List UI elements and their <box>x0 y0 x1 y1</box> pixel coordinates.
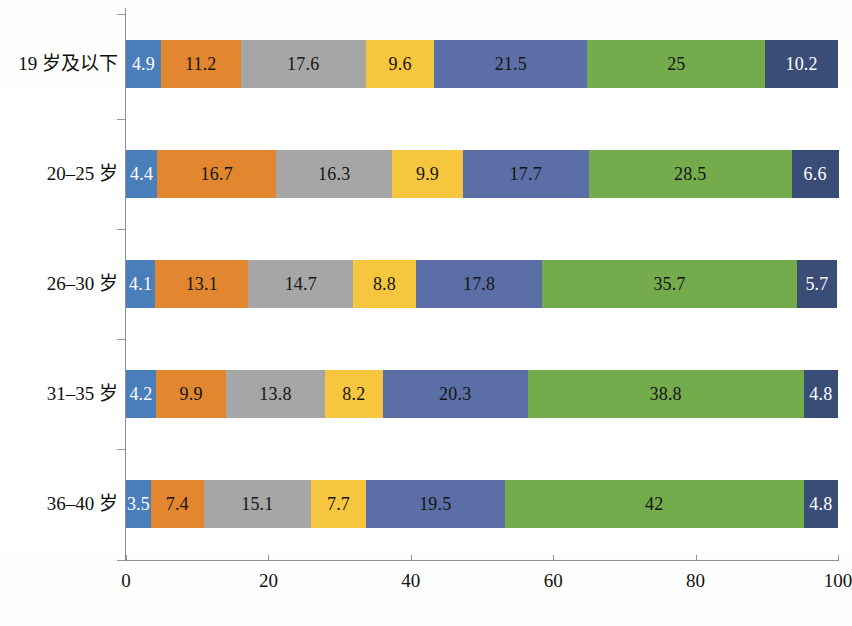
x-axis-tick <box>838 555 839 561</box>
bar-segment-value-label: 7.7 <box>327 494 350 514</box>
bar-segment[interactable]: 4.1 <box>126 260 155 308</box>
bar-segment-value-label: 8.2 <box>342 384 365 404</box>
bar-segment-value-label: 10.2 <box>785 54 817 74</box>
x-axis-tick-label: 80 <box>686 570 705 592</box>
bar-segment[interactable]: 9.6 <box>366 40 434 88</box>
bar-segment-value-label: 42 <box>645 494 663 514</box>
bar-segment[interactable]: 42 <box>505 480 804 528</box>
bar-segment[interactable]: 19.5 <box>366 480 505 528</box>
category-label: 36–40 岁 <box>6 492 118 516</box>
bar-segment[interactable]: 17.7 <box>463 150 589 198</box>
bar-segment[interactable]: 11.2 <box>161 40 241 88</box>
bar-segment-value-label: 28.5 <box>674 164 706 184</box>
x-axis-tick <box>268 555 269 561</box>
bar-segment[interactable]: 5.7 <box>797 260 838 308</box>
bar-segment[interactable]: 28.5 <box>589 150 792 198</box>
bar-segment[interactable]: 17.6 <box>241 40 366 88</box>
bar-row: 4.29.913.88.220.338.84.8 <box>126 370 838 418</box>
bar-segment[interactable]: 16.3 <box>276 150 392 198</box>
bar-segment-value-label: 38.8 <box>650 384 682 404</box>
bar-segment[interactable]: 7.4 <box>151 480 204 528</box>
bar-segment-value-label: 13.8 <box>259 384 291 404</box>
bar-segment[interactable]: 4.8 <box>804 370 838 418</box>
bar-row: 4.416.716.39.917.728.56.6 <box>126 150 839 198</box>
bar-segment[interactable]: 14.7 <box>248 260 353 308</box>
bar-segment[interactable]: 8.8 <box>353 260 416 308</box>
x-axis-tick <box>411 555 412 561</box>
bar-segment-value-label: 16.3 <box>318 164 350 184</box>
bar-segment-value-label: 17.8 <box>463 274 495 294</box>
bar-segment[interactable]: 13.1 <box>155 260 248 308</box>
bar-segment-value-label: 5.7 <box>805 274 828 294</box>
bar-row: 4.113.114.78.817.835.75.7 <box>126 260 837 308</box>
bar-segment-value-label: 19.5 <box>419 494 451 514</box>
bar-segment[interactable]: 13.8 <box>226 370 324 418</box>
bar-segment-value-label: 8.8 <box>373 274 396 294</box>
x-axis-line <box>126 560 838 561</box>
y-axis-tick <box>117 229 125 230</box>
bar-segment[interactable]: 8.2 <box>325 370 383 418</box>
bar-segment-value-label: 35.7 <box>653 274 685 294</box>
bar-segment-value-label: 7.4 <box>166 494 189 514</box>
bar-segment-value-label: 15.1 <box>241 494 273 514</box>
category-label: 31–35 岁 <box>6 382 118 406</box>
bar-segment[interactable]: 17.8 <box>416 260 543 308</box>
bar-segment-value-label: 4.4 <box>130 164 153 184</box>
bar-segment[interactable]: 9.9 <box>392 150 462 198</box>
bar-segment[interactable]: 35.7 <box>542 260 796 308</box>
x-axis-tick-label: 100 <box>824 570 852 592</box>
category-label: 19 岁及以下 <box>6 52 118 76</box>
bar-segment-value-label: 17.6 <box>287 54 319 74</box>
bar-segment[interactable]: 7.7 <box>311 480 366 528</box>
bar-segment[interactable]: 38.8 <box>528 370 804 418</box>
category-label: 20–25 岁 <box>6 162 118 186</box>
bar-segment-value-label: 13.1 <box>186 274 218 294</box>
bar-segment-value-label: 20.3 <box>439 384 471 404</box>
bar-segment[interactable]: 4.4 <box>126 150 157 198</box>
stacked-bar-chart: 020406080100 19 岁及以下20–25 岁26–30 岁31–35 … <box>0 0 852 626</box>
bar-segment-value-label: 21.5 <box>495 54 527 74</box>
y-axis-tick <box>117 119 125 120</box>
bar-segment-value-label: 14.7 <box>285 274 317 294</box>
bar-segment[interactable]: 15.1 <box>204 480 312 528</box>
bar-segment-value-label: 25 <box>667 54 685 74</box>
bar-segment-value-label: 9.6 <box>389 54 412 74</box>
bar-segment[interactable]: 4.2 <box>126 370 156 418</box>
bar-segment-value-label: 4.9 <box>132 54 155 74</box>
bar-segment[interactable]: 4.9 <box>126 40 161 88</box>
category-label: 26–30 岁 <box>6 272 118 296</box>
bar-segment-value-label: 9.9 <box>180 384 203 404</box>
paper-texture-overlay <box>0 0 852 626</box>
bar-segment-value-label: 4.2 <box>129 384 152 404</box>
bar-segment-value-label: 4.8 <box>809 494 832 514</box>
bar-segment[interactable]: 4.8 <box>804 480 838 528</box>
bar-segment[interactable]: 10.2 <box>765 40 838 88</box>
bar-row: 4.911.217.69.621.52510.2 <box>126 40 838 88</box>
bar-segment[interactable]: 16.7 <box>157 150 276 198</box>
x-axis-tick-label: 0 <box>121 570 131 592</box>
y-axis-tick <box>117 14 125 15</box>
x-axis-tick <box>553 555 554 561</box>
bar-segment-value-label: 17.7 <box>510 164 542 184</box>
x-axis-tick-label: 40 <box>401 570 420 592</box>
bar-segment-value-label: 9.9 <box>416 164 439 184</box>
bar-row: 3.57.415.17.719.5424.8 <box>126 480 838 528</box>
bar-segment[interactable]: 25 <box>587 40 765 88</box>
bar-segment-value-label: 4.8 <box>809 384 832 404</box>
y-axis-tick <box>117 560 125 561</box>
y-axis-tick <box>117 449 125 450</box>
bar-segment-value-label: 3.5 <box>127 494 150 514</box>
bar-segment-value-label: 11.2 <box>185 54 217 74</box>
bar-segment-value-label: 6.6 <box>804 164 827 184</box>
x-axis-tick-label: 20 <box>259 570 278 592</box>
bar-segment-value-label: 4.1 <box>129 274 152 294</box>
x-axis-tick <box>126 555 127 561</box>
bar-segment[interactable]: 3.5 <box>126 480 151 528</box>
y-axis-tick <box>117 339 125 340</box>
bar-segment[interactable]: 6.6 <box>792 150 839 198</box>
bar-segment[interactable]: 21.5 <box>434 40 587 88</box>
bar-segment[interactable]: 20.3 <box>383 370 528 418</box>
bar-segment[interactable]: 9.9 <box>156 370 226 418</box>
x-axis-tick <box>696 555 697 561</box>
bar-segment-value-label: 16.7 <box>201 164 233 184</box>
